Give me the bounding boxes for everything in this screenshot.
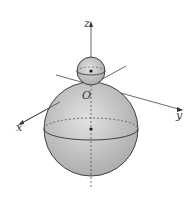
- y-label: y: [175, 109, 183, 122]
- two-spheres-diagram: z O x y: [0, 0, 196, 200]
- diagram-canvas: z O x y: [0, 0, 196, 200]
- origin-label: O: [82, 89, 91, 102]
- small-sphere-center: [89, 69, 92, 72]
- z-label: z: [83, 17, 90, 30]
- x-label: x: [16, 121, 23, 134]
